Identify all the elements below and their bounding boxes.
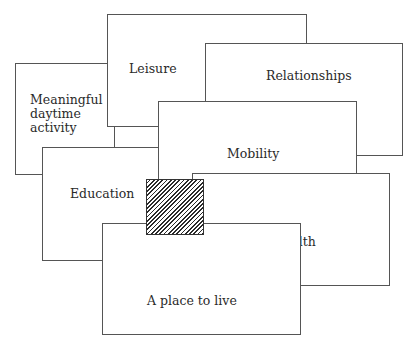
overlap-hatched-square bbox=[146, 179, 204, 235]
label-leisure: Leisure bbox=[129, 62, 177, 76]
label-relationships: Relationships bbox=[266, 69, 352, 83]
label-education: Education bbox=[70, 187, 134, 201]
label-meaningful-daytime-activity: Meaningful daytime activity bbox=[30, 93, 102, 135]
box-a-place-to-live bbox=[102, 223, 301, 335]
label-a-place-to-live: A place to live bbox=[147, 294, 237, 308]
label-mobility: Mobility bbox=[227, 147, 279, 161]
